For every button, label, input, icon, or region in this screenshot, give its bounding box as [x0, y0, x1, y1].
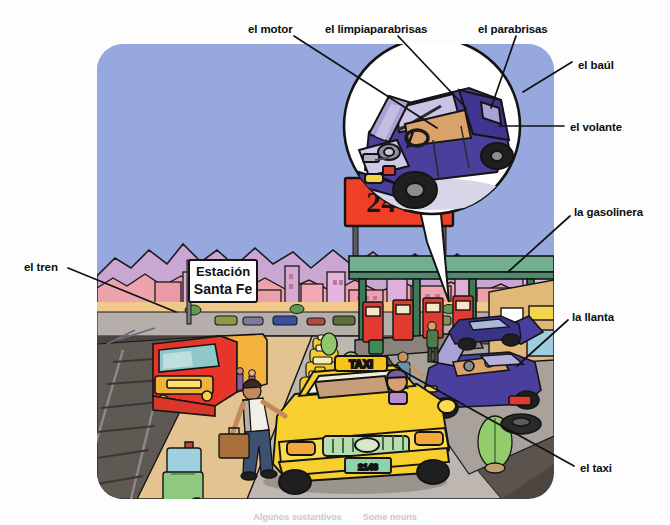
fuel-pump	[363, 302, 383, 342]
station-attendant	[427, 322, 438, 362]
taxi-roof-sign-text: TAXI	[349, 358, 373, 370]
label-la-llanta: la llanta	[572, 312, 614, 324]
fuel-pump	[393, 300, 413, 340]
label-el-motor: el motor	[248, 24, 293, 36]
taxi-roof-sign: TAXI	[335, 356, 387, 371]
caption-right: Some nouns	[363, 512, 417, 522]
station-sign-line1: Estación	[196, 264, 250, 279]
caption-left: Algunos sustantivos	[253, 512, 342, 522]
label-el-limpiaparabrisas: el limpiaparabrisas	[325, 24, 427, 36]
roadside-shrub	[321, 333, 337, 355]
bottom-caption: Algunos sustantivos Some nouns	[0, 512, 670, 522]
license-plate-text: 2143	[358, 462, 378, 472]
label-el-taxi: el taxi	[580, 463, 612, 475]
luggage-cart	[163, 442, 203, 499]
label-la-gasolinera: la gasolinera	[574, 207, 643, 219]
label-el-baul: el baúl	[578, 60, 614, 72]
page-background: Estación Santa Fe 24 hs	[0, 0, 670, 525]
label-el-tren: el tren	[24, 262, 58, 274]
taxi-driver	[387, 369, 407, 404]
illustration-panel: Estación Santa Fe 24 hs	[97, 44, 554, 499]
label-el-volante: el volante	[570, 122, 622, 134]
station-sign-line2: Santa Fe	[194, 281, 253, 297]
license-plate: 2143	[345, 458, 391, 473]
label-el-parabrisas: el parabrisas	[478, 24, 548, 36]
spare-tire	[501, 414, 541, 434]
